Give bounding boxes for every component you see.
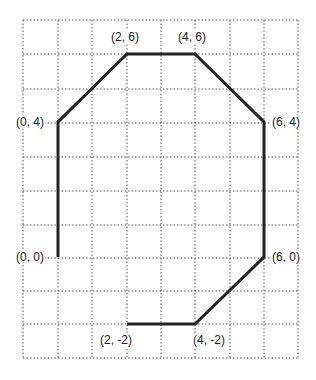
grid-figure <box>0 0 316 380</box>
label-6-0: (6, 0) <box>271 250 301 264</box>
label-4-6: (4, 6) <box>177 30 207 44</box>
label-0-4: (0, 4) <box>15 115 45 129</box>
label-6-4: (6, 4) <box>271 115 301 129</box>
label-4-neg2: (4, -2) <box>192 333 226 347</box>
label-0-0: (0, 0) <box>15 250 45 264</box>
label-2-6: (2, 6) <box>110 30 140 44</box>
label-2-neg2: (2, -2) <box>99 333 133 347</box>
diagram: (0, 0) (0, 4) (2, 6) (4, 6) (6, 4) (6, 0… <box>0 0 316 380</box>
dotted-grid <box>23 20 298 358</box>
